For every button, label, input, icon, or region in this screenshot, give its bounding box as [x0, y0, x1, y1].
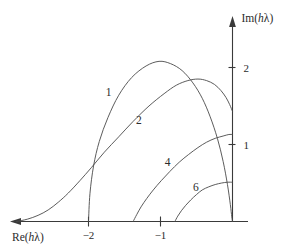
curve-label-2: 2 [136, 114, 142, 126]
x-axis-arrowhead [10, 218, 21, 225]
curve-label-4: 4 [165, 156, 171, 168]
stability-curve-6 [175, 182, 233, 221]
x-axis-label: Re(hλ) [12, 231, 44, 244]
x-tick-label: −2 [83, 229, 95, 241]
axes-group [10, 16, 248, 225]
y-axis-arrowhead [229, 16, 236, 27]
curve-labels-group: 1246 [106, 86, 199, 193]
y-axis-label: Im(hλ) [242, 12, 274, 25]
y-axis-ticks: 12 [229, 62, 250, 151]
curve-label-1: 1 [106, 86, 112, 98]
stability-curve-2 [17, 79, 233, 221]
x-axis-ticks: −2−1 [83, 217, 167, 241]
y-tick-label: 1 [244, 139, 250, 151]
curve-label-6: 6 [193, 181, 199, 193]
x-tick-label: −1 [155, 229, 167, 241]
stability-region-figure: −2−1 12 1246 Re(hλ) Im(hλ) [0, 0, 284, 252]
y-tick-label: 2 [244, 62, 250, 74]
plot-canvas: −2−1 12 1246 Re(hλ) Im(hλ) [0, 0, 284, 252]
curves-group [17, 61, 233, 221]
